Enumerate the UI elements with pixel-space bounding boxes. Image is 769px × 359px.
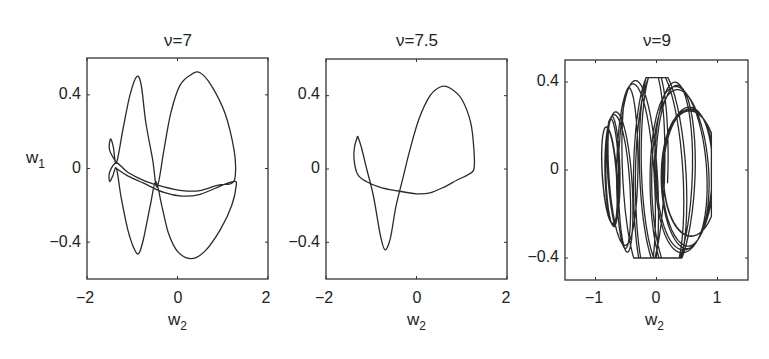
panel-1-xtick: 0 <box>158 289 198 307</box>
panel-1-ytick: −0.4 <box>31 233 81 251</box>
panel-2-xtick: −2 <box>304 289 344 307</box>
panel-1-ytick: 0 <box>31 159 81 177</box>
panel-1-xlabel: w2 <box>168 310 187 333</box>
panel-3-xtick: 1 <box>697 289 737 307</box>
panel-2-xtick: 0 <box>397 289 437 307</box>
panel-3-ytick: 0 <box>509 160 559 178</box>
panel-1-xtick: −2 <box>65 289 105 307</box>
panel-2-xtick: 2 <box>486 289 526 307</box>
panel-3-title: ν=9 <box>597 31 717 51</box>
panel-3-xtick: 0 <box>636 289 676 307</box>
panel-2-title: ν=7.5 <box>357 31 477 51</box>
panel-2-xlabel: w2 <box>407 310 426 333</box>
panel-1-ytick: 0.4 <box>31 85 81 103</box>
trajectory-line <box>602 78 712 258</box>
panel-1-xtick: 2 <box>246 289 286 307</box>
trajectory-line <box>354 86 475 250</box>
panel-1-title: ν=7 <box>118 31 238 51</box>
panel-2-ytick: −0.4 <box>270 233 320 251</box>
trajectory-line <box>109 72 236 259</box>
panel-3-xtick: −1 <box>574 289 614 307</box>
panel-3-ytick: 0.4 <box>509 72 559 90</box>
panel-2-ytick: 0.4 <box>270 85 320 103</box>
panel-3-xlabel: w2 <box>645 310 664 333</box>
panel-2-ytick: 0 <box>270 159 320 177</box>
panel-3-ytick: −0.4 <box>509 248 559 266</box>
figure: ν=7 w1 0.4 0 −0.4 −2 0 2 w2 ν=7.5 0.4 0 … <box>0 0 769 359</box>
axes-box <box>326 59 507 279</box>
